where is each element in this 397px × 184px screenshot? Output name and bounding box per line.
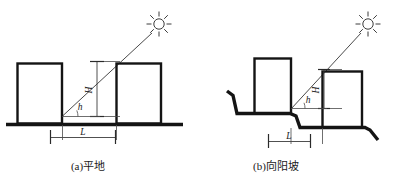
figure-canvas: H h L (a)平地 <box>0 0 397 184</box>
height-label: H <box>84 85 94 94</box>
panel-a-caption: (a)平地 <box>71 160 105 173</box>
spacing-label: L <box>79 127 85 137</box>
figure-background <box>0 0 397 184</box>
height-label: H <box>311 85 321 94</box>
technical-figure: H h L (a)平地 <box>0 0 397 184</box>
solar-altitude-angle-label: h <box>78 102 83 112</box>
spacing-label: L <box>285 131 291 141</box>
panel-b-caption: (b)向阳坡 <box>253 159 299 173</box>
solar-altitude-angle-label: h <box>306 95 311 105</box>
